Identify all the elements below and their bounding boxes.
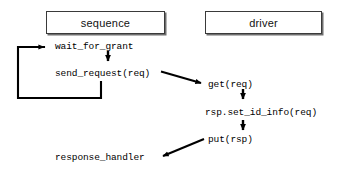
step-put: put(rsp) [208,134,253,145]
connector-layer [0,0,347,178]
sequence-flow-diagram: sequence driver [0,0,347,178]
step-get: get(req) [208,79,253,90]
step-wait-for-grant: wait_for_grant [55,41,133,52]
arrow-send-request-to-get [161,72,201,84]
arrow-put-to-response-handler [163,139,204,156]
step-send-request: send_request(req) [55,68,150,79]
step-set-id-info: rsp.set_id_info(req) [205,107,317,118]
step-response-handler: response_handler [55,152,145,163]
